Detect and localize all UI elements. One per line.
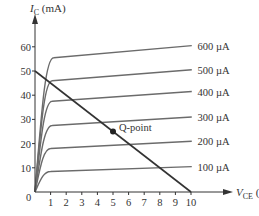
q-point: Q-point — [110, 122, 152, 135]
y-tick-label: 10 — [21, 163, 32, 174]
transistor-characteristics-chart: 100 µA200 µA300 µA400 µA500 µA600 µA 012… — [0, 0, 259, 216]
y-axis-title: IC (mA) — [29, 2, 66, 17]
curve-label: 600 µA — [198, 41, 230, 52]
x-tick-label: 6 — [126, 197, 131, 208]
collector-curve — [35, 117, 192, 192]
collector-curves: 100 µA200 µA300 µA400 µA500 µA600 µA — [35, 41, 230, 192]
x-axis-arrow-icon — [223, 189, 233, 195]
x-tick-label: 10 — [186, 197, 197, 208]
x-tick-label: 4 — [95, 197, 101, 208]
y-tick-label: 40 — [21, 90, 32, 101]
x-tick-label: 7 — [142, 197, 147, 208]
collector-curve — [35, 141, 192, 192]
q-point-marker-icon — [110, 129, 116, 135]
x-axis-title: VCE (V) — [236, 186, 259, 201]
x-tick-label: 5 — [110, 197, 115, 208]
x-tick-label: 9 — [173, 197, 178, 208]
collector-curve — [35, 167, 192, 192]
x-tick-label: 3 — [79, 197, 84, 208]
curve-label: 300 µA — [198, 112, 230, 123]
curve-label: 200 µA — [198, 136, 230, 147]
x-tick-label: 8 — [157, 197, 162, 208]
q-point-label: Q-point — [119, 122, 152, 133]
y-tick-label: 60 — [21, 42, 32, 53]
x-tick-label: 1 — [48, 197, 53, 208]
y-tick-label: 20 — [21, 139, 32, 150]
origin-label: 0 — [26, 192, 31, 203]
curve-label: 100 µA — [198, 162, 230, 173]
y-tick-label: 50 — [21, 66, 32, 77]
curve-label: 500 µA — [198, 65, 230, 76]
x-tick-label: 2 — [64, 197, 69, 208]
y-tick-label: 30 — [21, 114, 32, 125]
ticks: 012345678910102030405060 — [21, 42, 197, 208]
curve-label: 400 µA — [198, 87, 230, 98]
